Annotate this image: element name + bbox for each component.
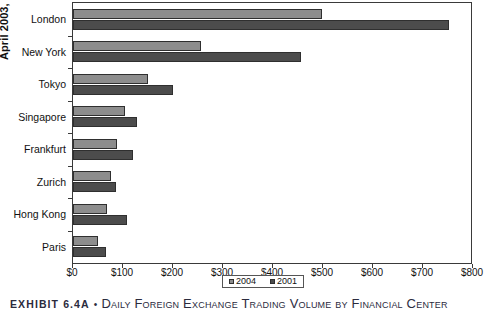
caption-exhibit-number: EXHIBIT 6.4A [10,298,90,310]
value-label-100: $100 [111,267,133,278]
value-label-200: $200 [161,267,183,278]
legend-item-2001: 2001 [270,277,297,286]
legend-label-2001: 2001 [277,277,297,286]
bar-tokyo-2001 [73,85,173,95]
bar-frankfurt-2004 [73,139,117,149]
category-label-london: London [31,13,66,25]
caption-separator: • [90,299,102,310]
value-label-600: $600 [361,267,383,278]
category-label-singapore: Singapore [18,111,66,123]
category-label-paris: Paris [42,241,66,253]
chart-legend: 20042001 [222,275,304,288]
bar-hong-kong-2001 [73,215,127,225]
bar-series-container [73,3,471,263]
bar-new-york-2004 [73,41,201,51]
bar-singapore-2001 [73,117,137,127]
value-label-0: $0 [66,267,77,278]
category-axis-labels: LondonNew YorkTokyoSingaporeFrankfurtZur… [0,2,69,264]
bar-london-2001 [73,20,449,30]
bar-frankfurt-2001 [73,150,133,160]
bar-zurich-2004 [73,171,111,181]
value-label-500: $500 [311,267,333,278]
bar-tokyo-2004 [73,74,148,84]
value-label-800: $800 [461,267,483,278]
bar-zurich-2001 [73,182,116,192]
legend-swatch-2004 [229,279,234,284]
bar-hong-kong-2004 [73,204,107,214]
category-label-hong-kong: Hong Kong [13,208,66,220]
legend-item-2004: 2004 [229,277,256,286]
category-label-tokyo: Tokyo [39,78,66,90]
bar-paris-2001 [73,247,106,257]
category-label-new-york: New York [22,46,66,58]
bar-singapore-2004 [73,106,125,116]
category-label-frankfurt: Frankfurt [24,143,66,155]
category-label-zurich: Zurich [37,176,66,188]
exhibit-caption: EXHIBIT 6.4A•Daily Foreign Exchange Trad… [10,296,485,311]
value-label-700: $700 [411,267,433,278]
caption-title: Daily Foreign Exchange Trading Volume by… [101,296,447,311]
exhibit-figure: April 2003, billions LondonNew YorkTokyo… [0,0,491,318]
bar-london-2004 [73,9,322,19]
bar-new-york-2001 [73,52,301,62]
bar-paris-2004 [73,236,98,246]
legend-swatch-2001 [270,279,275,284]
legend-label-2004: 2004 [236,277,256,286]
